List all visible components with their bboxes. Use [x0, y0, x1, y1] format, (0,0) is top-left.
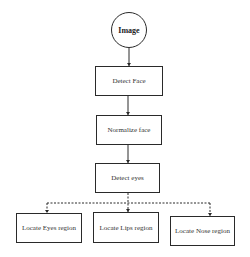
- detect-eyes-label: Detect eyes: [111, 174, 143, 182]
- detect-face-label: Detect Face: [112, 77, 145, 85]
- locate-nose-label: Locate Nose region: [175, 227, 230, 235]
- normalize-face-label: Normalize face: [108, 126, 151, 134]
- normalize-face-node: Normalize face: [96, 115, 162, 145]
- locate-lips-label: Locate Lips region: [100, 224, 153, 232]
- detect-face-node: Detect Face: [95, 66, 163, 96]
- locate-eyes-node: Locate Eyes region: [16, 213, 82, 243]
- detect-eyes-node: Detect eyes: [95, 163, 160, 193]
- locate-nose-node: Locate Nose region: [170, 216, 235, 246]
- locate-lips-node: Locate Lips region: [93, 212, 159, 243]
- image-node: Image: [111, 12, 147, 48]
- image-node-label: Image: [118, 26, 139, 35]
- locate-eyes-label: Locate Eyes region: [22, 224, 76, 232]
